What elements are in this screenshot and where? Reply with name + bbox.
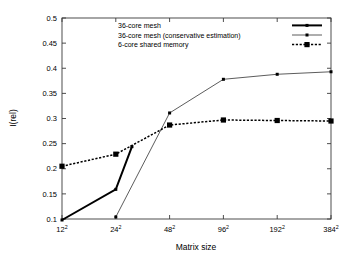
y-tick-label: 0.4 — [47, 64, 57, 73]
chart-canvas: 0.10.150.20.250.30.350.40.450.5 12224248… — [0, 0, 345, 256]
data-point-marker — [328, 118, 333, 123]
legend-sample-marker-1 — [306, 24, 309, 27]
y-tick-label: 0.1 — [47, 215, 57, 224]
x-tick-label: 3842 — [323, 224, 339, 234]
x-tick-label: 122 — [56, 224, 67, 234]
y-axis-title: I(rel) — [8, 109, 18, 127]
data-point-marker — [167, 122, 172, 127]
legend-sample-marker-3 — [304, 42, 309, 47]
y-tick-label: 0.45 — [42, 39, 57, 48]
data-point-marker — [222, 78, 225, 81]
data-point-marker — [114, 188, 117, 191]
y-tick-label: 0.25 — [42, 139, 57, 148]
legend-sample-marker-2 — [306, 34, 309, 37]
chart-figure: 0.10.150.20.250.30.350.40.450.5 12224248… — [0, 0, 345, 256]
legend-label-1: 36-core mesh — [118, 22, 161, 29]
chart-legend: 36-core mesh36-core mesh (conservative e… — [118, 22, 322, 49]
data-point-marker — [330, 70, 333, 73]
data-point-marker — [114, 215, 117, 218]
series-line-3 — [62, 120, 331, 166]
y-tick-label: 0.5 — [47, 14, 57, 23]
legend-label-2: 36-core mesh (conservative estimation) — [118, 32, 241, 40]
y-tick-label: 0.15 — [42, 190, 57, 199]
series-line-2 — [116, 72, 331, 217]
y-tick-label: 0.35 — [42, 89, 57, 98]
data-point-marker — [168, 111, 171, 114]
x-tick-label: 242 — [110, 224, 121, 234]
y-tick-label: 0.2 — [47, 164, 57, 173]
data-point-marker — [61, 219, 64, 222]
plot-frame — [62, 18, 331, 219]
x-axis-title: Matrix size — [176, 242, 217, 252]
y-tick-label: 0.3 — [47, 114, 57, 123]
x-tick-label: 1922 — [269, 224, 285, 234]
x-tick-label: 482 — [164, 224, 175, 234]
data-point-marker — [275, 118, 280, 123]
data-point-marker — [113, 152, 118, 157]
series-layer — [59, 70, 333, 221]
data-point-marker — [276, 73, 279, 76]
legend-label-3: 6-core shared memory — [118, 41, 189, 49]
data-point-marker — [221, 117, 226, 122]
data-point-marker — [59, 164, 64, 169]
x-axis: 12224248296219223842 — [56, 18, 338, 234]
x-tick-label: 962 — [218, 224, 229, 234]
